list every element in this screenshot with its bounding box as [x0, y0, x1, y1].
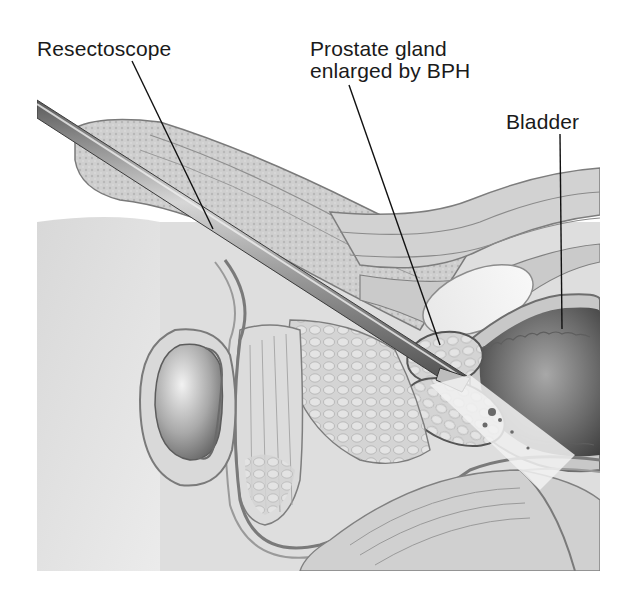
label-bladder: Bladder	[506, 111, 579, 133]
label-resectoscope: Resectoscope	[37, 38, 171, 60]
illustration-drawing	[0, 0, 639, 607]
anatomical-illustration: Resectoscope Prostate gland enlarged by …	[0, 0, 639, 607]
label-prostate-line1: Prostate gland	[310, 38, 470, 60]
label-prostate-line2: enlarged by BPH	[310, 60, 470, 82]
anatomy-art	[37, 100, 600, 571]
testis	[155, 344, 223, 460]
label-prostate-gland: Prostate gland enlarged by BPH	[310, 38, 470, 82]
